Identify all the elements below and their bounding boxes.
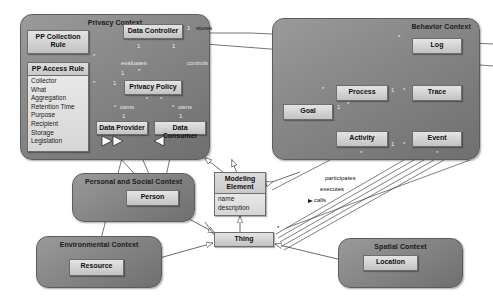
class-pp-collection-rule-name: PP Collection Rule (28, 31, 88, 51)
context-spatial-title: Spatial Context (339, 243, 462, 250)
class-goal[interactable]: Goal (283, 104, 333, 120)
label-owns-left: owns (120, 104, 134, 110)
context-personal-social-title: Personal and Social Context (73, 178, 194, 185)
attr-legislation: Legislation (31, 137, 85, 146)
class-data-provider-name: Data Provider (97, 122, 147, 134)
class-log[interactable]: Log (412, 38, 462, 54)
mult-pp-star-right: * (160, 96, 162, 102)
class-event[interactable]: Event (412, 131, 462, 147)
class-pp-collection-rule[interactable]: PP Collection Rule (27, 30, 89, 54)
class-location[interactable]: Location (363, 255, 418, 271)
label-executes: executes (320, 186, 344, 192)
mult-behavior-star: * (322, 86, 324, 92)
class-trace[interactable]: Trace (412, 85, 462, 101)
class-resource[interactable]: Resource (69, 259, 124, 276)
class-log-name: Log (413, 39, 461, 51)
attr-collector: Collector (31, 77, 85, 86)
mult-collection-star: * (93, 53, 95, 59)
class-pp-access-rule[interactable]: PP Access Rule Collector What Aggregatio… (27, 62, 89, 152)
attr-name: name (218, 195, 262, 204)
mult-activity-star: * (360, 150, 362, 156)
mult-process-one: 1 (391, 87, 394, 93)
label-participates: participates (325, 175, 356, 181)
mult-evaluates-one: 1 (121, 70, 124, 76)
class-thing[interactable]: Thing (214, 232, 274, 247)
mult-provider-one: 1 (122, 113, 125, 119)
label-calls: calls (314, 197, 326, 203)
mult-goal-one: 1 (337, 104, 340, 110)
mult-access-one: 1 (113, 80, 116, 86)
class-modeling-element-name: Modeling Element (215, 173, 265, 194)
class-modeling-element[interactable]: Modeling Element name description (214, 172, 266, 216)
class-modeling-element-attributes: name description (215, 194, 265, 215)
class-process[interactable]: Process (336, 85, 388, 101)
label-owns-right: owns (178, 104, 192, 110)
class-trace-name: Trace (413, 86, 461, 98)
class-data-consumer[interactable]: Data Consumer (154, 121, 206, 135)
class-data-provider[interactable]: Data Provider (96, 121, 148, 135)
mult-dc-pp-one: 1 (137, 43, 140, 49)
attr-what: What (31, 86, 85, 95)
mult-log-star: * (398, 34, 400, 40)
class-process-name: Process (337, 86, 387, 98)
label-stores: stores (196, 25, 212, 31)
label-controls: controls (187, 60, 208, 66)
class-privacy-policy[interactable]: Privacy Policy (124, 80, 182, 95)
class-location-name: Location (364, 256, 417, 268)
mult-dc-stores-one: 1 (187, 25, 190, 31)
class-thing-name: Thing (215, 233, 273, 245)
mult-evaluates-star: * (138, 68, 140, 74)
attr-description: description (218, 204, 262, 213)
mult-access-star: * (93, 80, 95, 86)
mult-thing-star: * (436, 150, 438, 156)
mult-owns-right-star: * (172, 104, 174, 110)
mult-event-star: * (403, 141, 405, 147)
mult-pp-star-left: * (146, 96, 148, 102)
mult-owns-left-star: * (114, 104, 116, 110)
diagram-canvas: Privacy Context PP Collection Rule PP Ac… (0, 0, 493, 306)
label-evaluates: evaluates (121, 60, 147, 66)
class-pp-access-rule-name: PP Access Rule (28, 63, 88, 76)
attr-aggregation: Aggregation (31, 94, 85, 103)
class-pp-access-rule-attributes: Collector What Aggregation Retention Tim… (28, 76, 88, 151)
attr-purpose: Purpose (31, 111, 85, 120)
context-behavior-title: Behavior Context (273, 23, 479, 30)
class-person-name: Person (127, 191, 178, 203)
attr-recipient: Recipient (31, 120, 85, 129)
class-resource-name: Resource (70, 260, 123, 272)
mult-activity-one: 1 (391, 141, 394, 147)
class-privacy-policy-name: Privacy Policy (125, 81, 181, 93)
class-goal-name: Goal (284, 105, 332, 117)
mult-consumer-one: 1 (179, 113, 182, 119)
class-data-controller[interactable]: Data Controller (123, 24, 183, 39)
mult-dc-controls-one: 1 (172, 43, 175, 49)
mult-thing-right-star: * (277, 225, 279, 231)
mult-trace-star: * (403, 87, 405, 93)
class-person[interactable]: Person (126, 190, 179, 206)
attr-storage: Storage (31, 129, 85, 138)
mult-goal-star: * (347, 101, 349, 107)
class-activity-name: Activity (337, 132, 387, 144)
class-event-name: Event (413, 132, 461, 144)
class-activity[interactable]: Activity (336, 131, 388, 147)
context-environmental-title: Environmental Context (37, 241, 161, 248)
generalization-markers-privacy (96, 134, 211, 148)
attr-retention-time: Retention Time (31, 103, 85, 112)
class-data-controller-name: Data Controller (124, 25, 182, 37)
